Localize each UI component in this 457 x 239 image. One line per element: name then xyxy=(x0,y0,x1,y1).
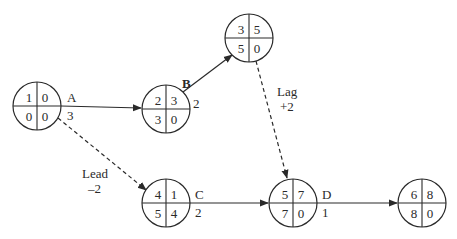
node-b: 2 3 3 0 xyxy=(142,85,190,133)
node-start-br: 0 xyxy=(42,109,49,124)
node-b-bl: 3 xyxy=(155,112,162,127)
activity-label-c: C xyxy=(195,187,204,202)
node-d-tl: 5 xyxy=(282,187,289,202)
network-diagram: 1 0 0 0 A 3 2 3 3 0 B 2 3 5 5 0 Lag +2 L… xyxy=(0,0,457,239)
node-c-br: 4 xyxy=(171,206,178,221)
lag-label: Lag xyxy=(277,84,298,99)
node-end-tr: 8 xyxy=(427,187,434,202)
node-d-bl: 7 xyxy=(282,206,289,221)
node-d-tr: 7 xyxy=(298,187,305,202)
node-d-br: 0 xyxy=(298,206,305,221)
duration-a: 3 xyxy=(67,108,74,123)
node-start-tl: 1 xyxy=(26,90,33,105)
node-b-tr: 3 xyxy=(171,93,178,108)
node-b-tl: 2 xyxy=(155,93,162,108)
lag-value: +2 xyxy=(280,99,294,114)
node-c-tr: 1 xyxy=(171,187,178,202)
duration-c: 2 xyxy=(195,205,202,220)
activity-label-d: D xyxy=(322,187,331,202)
node-top-tl: 3 xyxy=(238,22,245,37)
edge-lag xyxy=(256,61,287,178)
node-top-bl: 5 xyxy=(238,41,245,56)
duration-b: 2 xyxy=(193,96,200,111)
node-end-bl: 8 xyxy=(411,206,418,221)
node-start-tr: 0 xyxy=(42,90,49,105)
node-end-tl: 6 xyxy=(411,187,418,202)
node-end: 6 8 8 0 xyxy=(398,179,446,227)
node-end-br: 0 xyxy=(427,206,434,221)
activity-label-a: A xyxy=(67,90,77,105)
node-top-br: 0 xyxy=(254,41,261,56)
node-top: 3 5 5 0 xyxy=(225,14,273,62)
node-c: 4 1 5 4 xyxy=(142,179,190,227)
edges xyxy=(58,55,397,203)
node-start-bl: 0 xyxy=(26,109,33,124)
activity-label-b: B xyxy=(182,76,191,91)
node-b-br: 0 xyxy=(171,112,178,127)
lead-value: –2 xyxy=(87,181,101,196)
node-start: 1 0 0 0 xyxy=(13,82,61,130)
node-d: 5 7 7 0 xyxy=(269,179,317,227)
node-top-tr: 5 xyxy=(254,22,261,37)
node-c-bl: 5 xyxy=(155,206,162,221)
duration-d: 1 xyxy=(322,205,329,220)
lead-label: Lead xyxy=(82,166,108,181)
node-c-tl: 4 xyxy=(155,187,162,202)
